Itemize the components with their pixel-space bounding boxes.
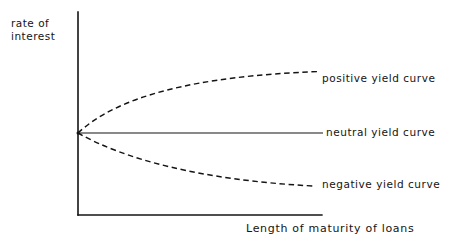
series-label-negative: negative yield curve	[322, 178, 440, 191]
series-label-neutral: neutral yield curve	[326, 126, 435, 139]
curve-origin-point	[77, 132, 80, 135]
yield-curve-diagram	[0, 0, 454, 245]
x-axis-title: Length of maturity of loans	[246, 222, 414, 236]
figure-background	[0, 0, 454, 245]
series-label-positive: positive yield curve	[322, 72, 435, 85]
y-axis-title-line-1: rate of	[11, 17, 55, 30]
y-axis-title-line-2: interest	[11, 30, 55, 43]
y-axis-title: rate of interest	[11, 17, 55, 44]
